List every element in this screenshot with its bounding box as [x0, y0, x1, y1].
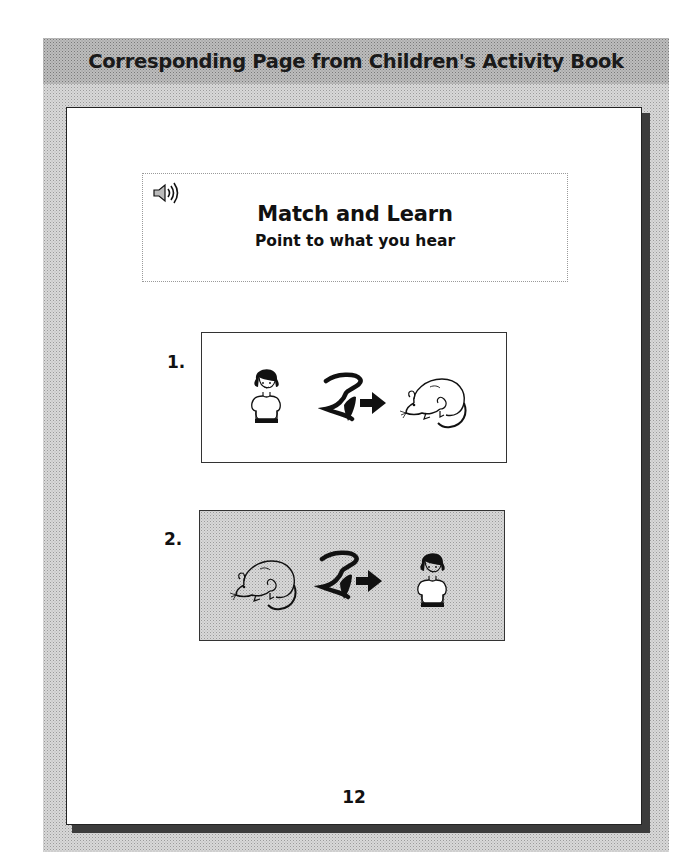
speaker-sound-icon[interactable] [152, 182, 182, 204]
panel-title-band: Corresponding Page from Children's Activ… [43, 38, 669, 84]
item-number-2: 2. [164, 529, 182, 549]
activity-title: Match and Learn [143, 202, 567, 226]
activity-instruction: Point to what you hear [143, 232, 567, 250]
girl-icon [412, 547, 452, 611]
see-sign-arrow-icon [318, 371, 390, 427]
panel-title: Corresponding Page from Children's Activ… [88, 50, 624, 73]
activity-header-box: Match and Learn Point to what you hear [142, 173, 568, 282]
page-number: 12 [67, 787, 641, 807]
girl-icon [246, 363, 286, 427]
match-item-2[interactable] [199, 510, 505, 641]
item-number-1: 1. [167, 352, 185, 372]
mouse-icon [400, 373, 470, 429]
mouse-icon [230, 555, 300, 611]
see-sign-arrow-icon [314, 549, 386, 605]
match-item-1[interactable] [201, 332, 507, 463]
activity-page: Match and Learn Point to what you hear 1… [66, 107, 642, 825]
